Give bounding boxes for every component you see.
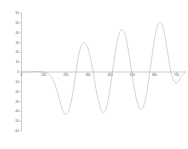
line-chart: 6050403020100-10-20-30-40-50-60 01002003… [0,0,188,149]
x-axis: 0100200300400500600700 [20,72,185,77]
x-tick-label: 100 [41,73,46,77]
y-tick-label: 10 [15,60,19,64]
y-tick-label: -20 [14,90,19,94]
x-tick-label: 200 [63,73,68,77]
x-tick-label: 700 [174,73,179,77]
y-tick-label: 40 [15,31,19,35]
y-tick-label: 0 [17,70,19,74]
y-tick-label: -50 [14,119,19,123]
x-tick-label: 600 [152,73,157,77]
x-tick-label: 0 [20,73,22,77]
y-axis: 6050403020100-10-20-30-40-50-60 [14,11,21,133]
y-tick-label: -30 [14,100,19,104]
y-tick-label: 50 [15,21,19,25]
data-series-group [22,22,186,114]
y-tick-label: 60 [15,11,19,15]
data-line-signal [22,22,186,114]
x-tick-label: 300 [85,73,90,77]
chart-container: 6050403020100-10-20-30-40-50-60 01002003… [0,0,188,149]
y-tick-label: 30 [15,41,19,45]
y-tick-label: -40 [14,109,19,113]
y-tick-label: 20 [15,50,19,54]
y-tick-label: -10 [14,80,19,84]
y-tick-label: -60 [14,129,19,133]
